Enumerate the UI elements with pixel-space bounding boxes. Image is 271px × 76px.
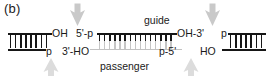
arrow-bottom-left-icon (43, 58, 59, 76)
panel-label: (b) (4, 1, 21, 16)
left-duplex-basepairs (10, 34, 51, 48)
right-duplex-bottom-strand (222, 49, 266, 51)
guide-three-prime-label: OH-3' (177, 28, 204, 39)
passenger-strand-name-label: passenger (100, 61, 149, 72)
guide-five-prime-label: 5'-p (76, 28, 93, 39)
arrow-top-right-icon (204, 3, 221, 27)
right-duplex-basepairs (230, 34, 266, 48)
center-duplex-basepairs-upper (99, 34, 175, 41)
left-duplex-top-end-label: OH (52, 28, 68, 39)
arrow-top-left-icon (69, 3, 86, 27)
arrow-bottom-right-icon (183, 58, 199, 76)
passenger-three-prime-label: 3'-HO (62, 46, 89, 57)
figure-panel-b: (b) OH p guide 5'-p O (0, 0, 271, 76)
left-duplex-bottom-strand (8, 49, 46, 51)
guide-strand-name-label: guide (144, 15, 170, 26)
passenger-five-prime-label: p-5' (159, 46, 176, 57)
right-duplex-bottom-end-label: HO (200, 46, 216, 57)
left-duplex-bottom-end-label: p (46, 46, 52, 57)
right-duplex-top-end-label: p (221, 28, 227, 39)
